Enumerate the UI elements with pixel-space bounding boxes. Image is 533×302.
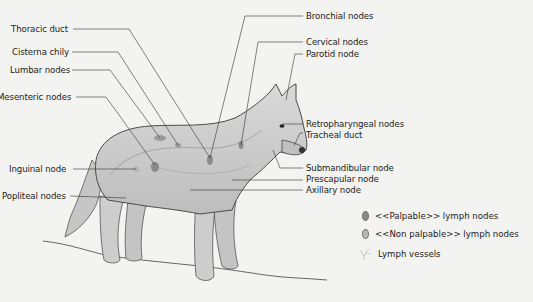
label-mesenteric-nodes: Mesenteric nodes (0, 92, 71, 102)
hind-leg-back (125, 200, 146, 261)
lymphatic-diagram: Thoracic duct Cisterna chily Lumbar node… (0, 0, 533, 302)
label-prescapular-node: Prescapular node (306, 174, 379, 184)
legend-non-palpable-label: <<Non palpable>> lymph nodes (375, 229, 519, 239)
legend-non-palpable: <<Non palpable>> lymph nodes (362, 229, 519, 239)
non-palpable-node-icon (362, 229, 369, 239)
legend-vessels: Lymph vessels (360, 248, 441, 260)
label-thoracic-duct: Thoracic duct (11, 24, 68, 34)
lymph-vessel-icon (360, 248, 372, 260)
label-popliteal-nodes: Popliteal nodes (2, 191, 66, 201)
node-bronchial (207, 155, 213, 165)
dog-body (96, 84, 307, 214)
label-retropharyngeal-nodes: Retropharyngeal nodes (306, 119, 404, 129)
label-inguinal-node: Inguinal node (9, 164, 66, 174)
label-axillary-node: Axillary node (306, 185, 361, 195)
ground-line (43, 241, 327, 280)
dog-illustration (0, 0, 533, 302)
label-tracheal-duct: Tracheal duct (306, 130, 362, 140)
legend-vessels-label: Lymph vessels (378, 249, 441, 259)
label-lumbar-nodes: Lumbar nodes (10, 65, 70, 75)
dog-nose (299, 147, 305, 153)
label-parotid-node: Parotid node (306, 49, 359, 59)
palpable-node-icon (362, 211, 369, 221)
legend-palpable: <<Palpable>> lymph nodes (362, 211, 498, 221)
legend-palpable-label: <<Palpable>> lymph nodes (375, 211, 498, 221)
label-cervical-nodes: Cervical nodes (306, 37, 368, 47)
label-submandibular-node: Submandibular node (306, 163, 394, 173)
label-bronchial-nodes: Bronchial nodes (306, 11, 373, 21)
label-cisterna-chily: Cisterna chily (12, 47, 69, 57)
dog-eye (280, 124, 285, 128)
hind-leg-front (100, 196, 124, 263)
node-mesenteric (151, 162, 159, 172)
